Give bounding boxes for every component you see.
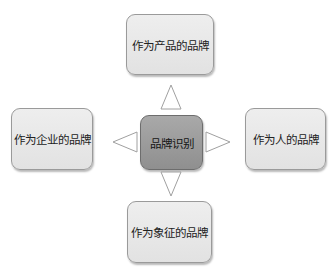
node-person-brand: 作为人的品牌 — [245, 108, 326, 170]
node-product-brand-label: 作为产品的品牌 — [132, 37, 209, 53]
triangle-left-icon — [112, 131, 138, 153]
node-symbol-brand: 作为象征的品牌 — [127, 201, 212, 263]
triangle-right-icon — [205, 131, 231, 153]
node-product-brand: 作为产品的品牌 — [126, 14, 214, 75]
center-node-label: 品牌识别 — [150, 135, 194, 151]
node-symbol-brand-label: 作为象征的品牌 — [131, 224, 208, 240]
center-node-brand-identity: 品牌识别 — [140, 115, 203, 170]
node-person-brand-label: 作为人的品牌 — [253, 131, 319, 147]
triangle-down-icon — [160, 171, 182, 197]
node-organization-brand-label: 作为企业的品牌 — [14, 131, 91, 147]
node-organization-brand: 作为企业的品牌 — [11, 108, 93, 170]
triangle-up-icon — [160, 84, 182, 110]
